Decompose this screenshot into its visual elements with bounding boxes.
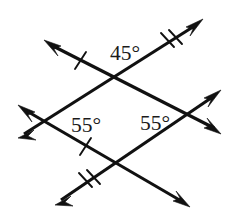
line-lower-rising-group bbox=[55, 90, 221, 206]
arrow-head-upper-right-rising-2 bbox=[204, 90, 221, 107]
geometry-diagram-canvas: 45° 55° 55° bbox=[0, 0, 234, 218]
arrow-head-upper-right-rising bbox=[186, 19, 203, 36]
angle-label-left: 55° bbox=[71, 113, 101, 137]
angle-label-right: 55° bbox=[140, 111, 170, 135]
arrow-head-lower-right-falling bbox=[204, 118, 221, 134]
angle-label-top: 45° bbox=[110, 41, 140, 65]
geometry-figure: 45° 55° 55° bbox=[0, 0, 234, 218]
